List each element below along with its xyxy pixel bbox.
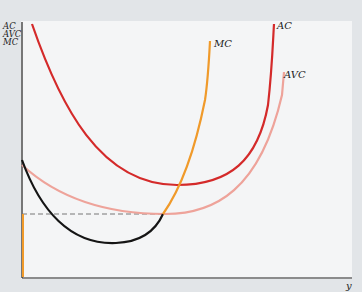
x-axis-label: y <box>346 280 352 291</box>
mc-curve <box>163 41 210 214</box>
cost-curves-chart <box>0 0 362 292</box>
mc-lower-curve <box>22 160 163 243</box>
ac-label: AC <box>277 20 292 31</box>
avc-label: AVC <box>284 69 306 80</box>
ac-curve <box>32 24 274 185</box>
mc-label: MC <box>214 38 232 49</box>
